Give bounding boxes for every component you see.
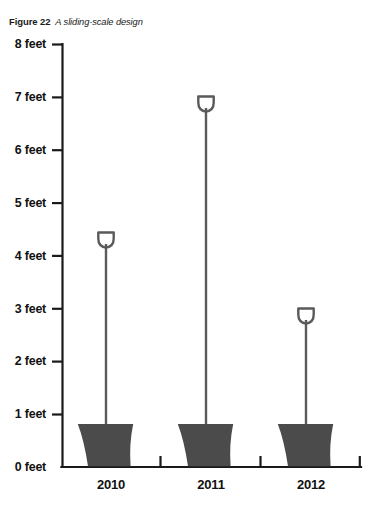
- y-axis-label-1: 1 feet: [15, 407, 46, 421]
- shovel-bar-chart: 8 feet 7 feet 6 feet 5 feet 4 feet 3 fee…: [0, 0, 382, 514]
- x-axis-label-2011: 2011: [197, 477, 224, 492]
- y-axis-label-8: 8 feet: [15, 37, 46, 51]
- y-axis-label-0: 0 feet: [15, 460, 46, 474]
- y-axis-label-4: 4 feet: [15, 249, 46, 263]
- shovel-blade-2011: [178, 424, 233, 466]
- y-axis-label-2: 2 feet: [15, 354, 46, 368]
- shovel-blade-2010: [78, 424, 133, 466]
- y-axis-labels: 8 feet 7 feet 6 feet 5 feet 4 feet 3 fee…: [15, 37, 46, 474]
- y-axis-ticks: [52, 45, 63, 415]
- x-axis-labels: 2010 2011 2012: [97, 477, 325, 492]
- data-series-2011[interactable]: [178, 97, 233, 467]
- y-axis-label-6: 6 feet: [15, 143, 46, 157]
- x-axis-label-2010: 2010: [97, 477, 125, 492]
- y-axis-label-3: 3 feet: [15, 302, 46, 316]
- y-axis-label-7: 7 feet: [15, 90, 46, 104]
- y-axis-label-5: 5 feet: [15, 196, 46, 210]
- x-axis-label-2012: 2012: [297, 477, 325, 492]
- data-series-2012[interactable]: [278, 309, 333, 467]
- shovel-blade-2012: [278, 424, 333, 466]
- data-series-2010[interactable]: [78, 233, 133, 467]
